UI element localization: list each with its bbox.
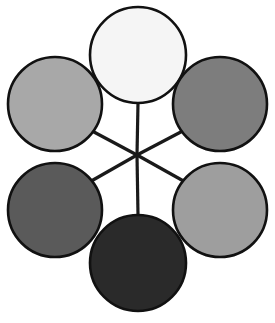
node-bottom[interactable] [90,215,186,311]
node-bottom-left[interactable] [8,163,102,257]
node-top[interactable] [90,7,186,103]
radial-hub-diagram [0,0,275,323]
node-top-left[interactable] [8,57,102,151]
node-top-right[interactable] [173,57,267,151]
node-bottom-right[interactable] [173,163,267,257]
spoke-to-top [137,103,138,155]
diagram-canvas [0,0,275,323]
spoke-to-bottom [137,155,138,215]
